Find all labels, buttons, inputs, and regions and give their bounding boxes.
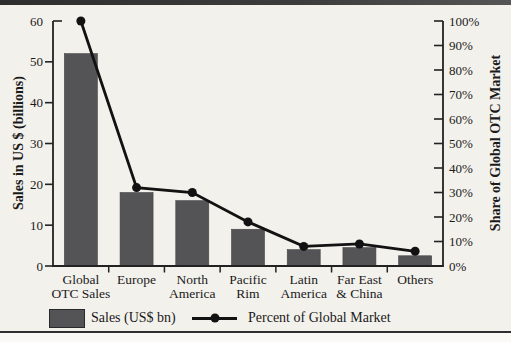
legend-label-sales: Sales (US$ bn): [91, 310, 176, 326]
category-label: Others: [397, 272, 433, 287]
sales-bar: [343, 248, 376, 266]
category-label: Europe: [117, 272, 156, 287]
left-axis-tick-label: 40: [30, 95, 43, 110]
category-label: North: [177, 272, 209, 287]
category-label: America: [280, 286, 326, 301]
left-axis-tick-label: 0: [37, 259, 44, 274]
category-label: Far East: [337, 272, 382, 287]
category-label: Global: [62, 272, 99, 287]
sales-bar: [399, 256, 432, 266]
percent-dot: [76, 17, 85, 26]
left-axis-tick-label: 50: [30, 54, 43, 69]
percent-dot: [299, 242, 308, 251]
left-axis-title: Sales in US $ (billions): [10, 21, 28, 266]
left-axis-tick-label: 60: [30, 14, 43, 29]
chart-legend: Sales (US$ bn) Percent of Global Market: [0, 306, 511, 330]
right-axis-tick-label: 70%: [449, 87, 473, 102]
percent-dot: [411, 247, 420, 256]
right-axis-tick-label: 0%: [449, 259, 467, 274]
scanned-chart-page: 01020304050600%10%20%30%40%50%60%70%80%9…: [0, 0, 511, 342]
category-label: Pacific: [229, 272, 266, 287]
line-dot-swatch-icon: [192, 317, 237, 320]
category-label: & China: [336, 286, 382, 301]
right-axis-tick-label: 10%: [449, 234, 473, 249]
sales-bar: [120, 193, 153, 267]
percent-dot: [355, 239, 364, 248]
sales-bar: [64, 54, 97, 266]
right-axis-title: Share of Global OTC Market: [487, 21, 505, 266]
right-axis-tick-label: 90%: [449, 38, 473, 53]
percent-dot: [244, 217, 253, 226]
sales-bar: [287, 250, 320, 266]
page-bottom-margin: [0, 333, 511, 342]
right-axis-tick-label: 50%: [449, 136, 473, 151]
right-axis-tick-label: 20%: [449, 210, 473, 225]
right-axis-tick-label: 80%: [449, 63, 473, 78]
otc-sales-chart: 01020304050600%10%20%30%40%50%60%70%80%9…: [0, 0, 511, 342]
sales-bar: [176, 201, 209, 266]
left-axis-tick-label: 20: [30, 177, 43, 192]
right-axis-tick-label: 100%: [449, 14, 480, 29]
left-axis-tick-label: 30: [30, 136, 43, 151]
legend-label-percent: Percent of Global Market: [248, 310, 391, 326]
bar-swatch-icon: [49, 309, 85, 328]
right-axis-tick-label: 60%: [449, 112, 473, 127]
category-label: Rim: [236, 286, 260, 301]
right-axis-tick-label: 30%: [449, 185, 473, 200]
legend-item-sales: Sales (US$ bn): [49, 306, 176, 330]
percent-dot: [188, 188, 197, 197]
percent-dot: [132, 183, 141, 192]
right-axis-tick-label: 40%: [449, 161, 473, 176]
chart-canvas: 01020304050600%10%20%30%40%50%60%70%80%9…: [0, 0, 511, 342]
left-axis-tick-label: 10: [30, 218, 43, 233]
category-label: Latin: [289, 272, 318, 287]
sales-bar: [232, 229, 265, 266]
category-label: America: [169, 286, 215, 301]
legend-item-percent: Percent of Global Market: [192, 306, 391, 330]
category-label: OTC Sales: [51, 286, 110, 301]
